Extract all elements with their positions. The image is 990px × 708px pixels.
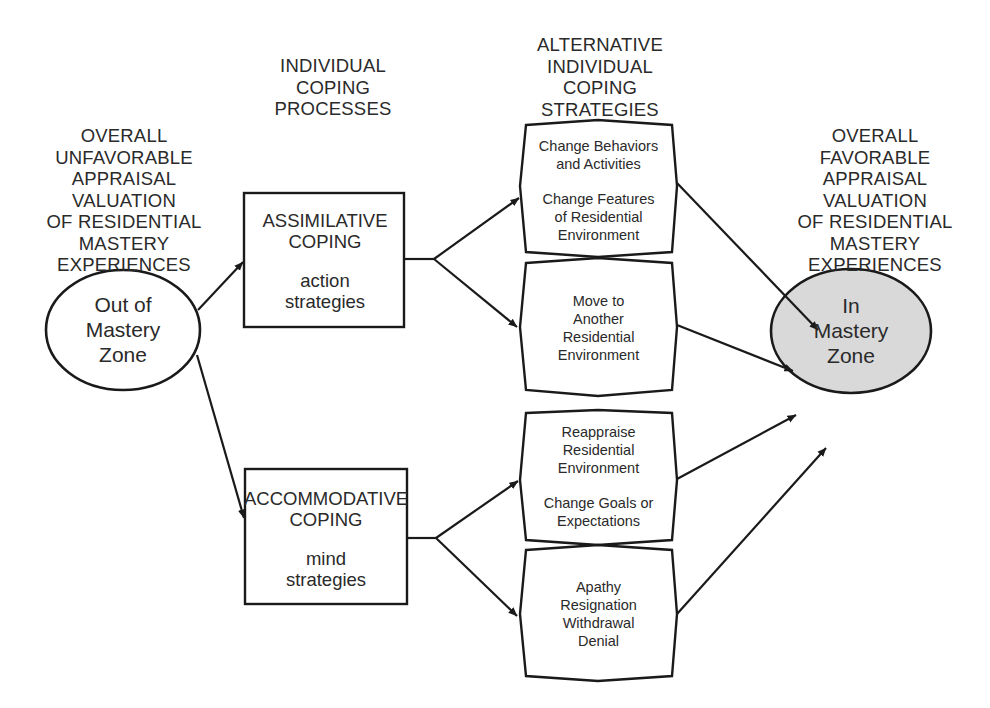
heading-line: INDIVIDUAL (258, 55, 408, 77)
heading-line: COPING (258, 77, 408, 99)
heading-unfavorable-appraisal: OVERALL UNFAVORABLE APPRAISAL VALUATION … (13, 125, 235, 276)
node-line: Zone (791, 343, 911, 368)
strategy-line: Environment (520, 346, 677, 364)
heading-line: MASTERY (770, 233, 980, 255)
node-line: In (791, 293, 911, 318)
strategy-line: Change Goals or (520, 494, 677, 512)
heading-line: INDIVIDUAL (525, 56, 675, 78)
edge-assimilative-to-strategy-1-arrow (434, 198, 519, 259)
strategy-line: Environment (520, 226, 677, 244)
node-line: Out of (63, 292, 183, 317)
heading-line: APPRAISAL (13, 168, 235, 190)
assimilative-coping-label: ASSIMILATIVE COPING action strategies (244, 210, 406, 312)
in-mastery-zone-label: In Mastery Zone (791, 293, 911, 368)
strategy-line: Residential (520, 441, 677, 459)
strategy-1-label: Change Behaviors and Activities Change F… (520, 137, 677, 244)
heading-favorable-appraisal: OVERALL FAVORABLE APPRAISAL VALUATION OF… (770, 125, 980, 276)
heading-line: OF RESIDENTIAL (13, 211, 235, 233)
strategy-line: and Activities (520, 155, 677, 173)
strategy-line: Another (520, 310, 677, 328)
heading-line: UNFAVORABLE (13, 147, 235, 169)
node-title-line: COPING (244, 509, 408, 530)
heading-line: OF RESIDENTIAL (770, 211, 980, 233)
edge-assimilative-to-strategy-2-arrow (434, 259, 517, 327)
edge-strategy-3-to-in-mastery-arrow (677, 415, 796, 479)
heading-line: APPRAISAL (770, 168, 980, 190)
accommodative-coping-label: ACCOMMODATIVE COPING mind strategies (244, 488, 408, 590)
heading-line: OVERALL (770, 125, 980, 147)
heading-line: OVERALL (13, 125, 235, 147)
heading-line: PROCESSES (258, 98, 408, 120)
edge-accommodative-to-strategy-4-arrow (436, 538, 517, 616)
strategy-4-label: Apathy Resignation Withdrawal Denial (520, 578, 677, 650)
strategy-line: Expectations (520, 512, 677, 530)
strategy-line: Residential (520, 328, 677, 346)
node-subtitle-line: action (244, 270, 406, 291)
strategy-line: Apathy (520, 578, 677, 596)
node-title-line: COPING (244, 231, 406, 252)
heading-line: VALUATION (13, 190, 235, 212)
strategy-line: Resignation (520, 596, 677, 614)
heading-coping-processes: INDIVIDUAL COPING PROCESSES (258, 55, 408, 120)
node-subtitle-line: strategies (244, 569, 408, 590)
out-of-mastery-zone-label: Out of Mastery Zone (63, 292, 183, 367)
edge-strategy-4-to-in-mastery-arrow (677, 448, 826, 614)
edge-out-to-accommodative-arrow (197, 355, 244, 518)
heading-line: EXPERIENCES (770, 254, 980, 276)
node-title-line: ASSIMILATIVE (244, 210, 406, 231)
strategy-line: Change Behaviors (520, 137, 677, 155)
heading-line: STRATEGIES (525, 99, 675, 121)
heading-line: VALUATION (770, 190, 980, 212)
heading-line: COPING (525, 77, 675, 99)
strategy-line: Move to (520, 292, 677, 310)
strategy-line: of Residential (520, 208, 677, 226)
edge-accommodative-to-strategy-3-arrow (436, 481, 518, 538)
strategy-3-label: Reappraise Residential Environment Chang… (520, 423, 677, 530)
node-line: Zone (63, 342, 183, 367)
heading-line: MASTERY (13, 233, 235, 255)
strategy-line: Environment (520, 459, 677, 477)
strategy-line: Denial (520, 632, 677, 650)
strategy-line: Withdrawal (520, 614, 677, 632)
node-subtitle-line: mind (244, 548, 408, 569)
heading-coping-strategies: ALTERNATIVE INDIVIDUAL COPING STRATEGIES (525, 34, 675, 120)
strategy-line: Change Features (520, 190, 677, 208)
heading-line: EXPERIENCES (13, 254, 235, 276)
heading-line: FAVORABLE (770, 147, 980, 169)
node-line: Mastery (791, 318, 911, 343)
strategy-line: Reappraise (520, 423, 677, 441)
heading-line: ALTERNATIVE (525, 34, 675, 56)
node-title-line: ACCOMMODATIVE (244, 488, 408, 509)
node-line: Mastery (63, 317, 183, 342)
strategy-2-label: Move to Another Residential Environment (520, 292, 677, 364)
node-subtitle-line: strategies (244, 291, 406, 312)
